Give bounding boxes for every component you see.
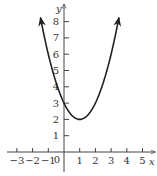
axes: xy0 (7, 3, 155, 172)
y-tick-label: 2 (53, 114, 59, 125)
x-tick-label: 5 (139, 155, 145, 166)
x-axis-label: x (149, 156, 155, 167)
y-tick-label: 3 (53, 98, 59, 109)
x-tick-label: −3 (10, 155, 25, 166)
x-tick-label: 1 (77, 155, 83, 166)
x-tick-label: 2 (92, 155, 98, 166)
x-tick-label: −2 (25, 155, 40, 166)
y-tick-label: 1 (53, 130, 59, 141)
x-tick-label: −1 (41, 155, 56, 166)
y-axis-label: y (55, 3, 62, 14)
y-tick-label: 8 (53, 16, 59, 27)
y-tick-label: 7 (53, 32, 59, 43)
x-tick-label: 4 (124, 155, 130, 166)
parabola-chart: xy0 −3−2−11234512345678 (0, 0, 157, 176)
y-tick-label: 6 (53, 49, 59, 60)
ticks: −3−2−11234512345678 (10, 16, 146, 166)
x-tick-label: 3 (108, 155, 114, 166)
